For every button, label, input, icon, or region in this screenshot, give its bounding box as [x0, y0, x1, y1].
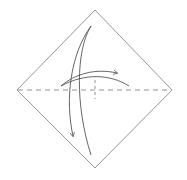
diagram-svg [0, 0, 187, 180]
origami-diagram [0, 0, 187, 180]
paper-diamond-outline [17, 10, 172, 168]
